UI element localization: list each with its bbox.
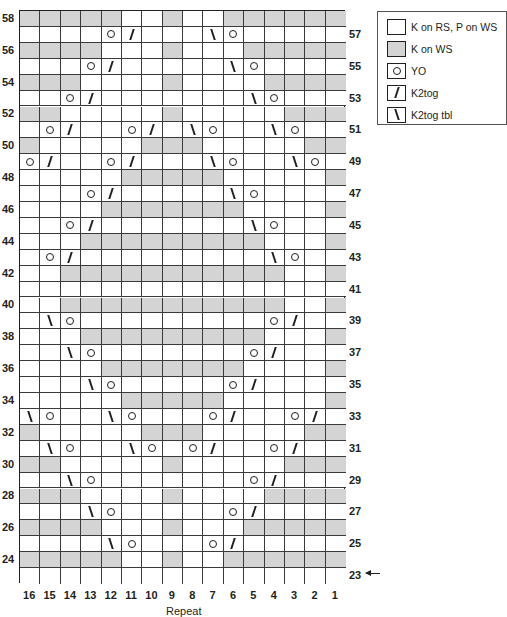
row-number: 47 [349, 187, 361, 199]
chart-cell [40, 425, 60, 441]
chart-cell [244, 11, 264, 27]
chart-cell [122, 202, 142, 218]
chart-cell [244, 266, 264, 282]
chart-cell [20, 266, 40, 282]
chart-cell [244, 552, 264, 568]
backslash-icon [68, 475, 74, 486]
chart-cell [285, 122, 305, 138]
yarn-over-circle-icon [46, 412, 54, 420]
chart-cell [122, 11, 142, 27]
chart-cell [20, 457, 40, 473]
chart-cell [81, 298, 101, 314]
row-number: 49 [349, 155, 361, 167]
backslash-icon [108, 411, 114, 422]
chart-cell [244, 250, 264, 266]
chart-cell [326, 361, 346, 377]
chart-row-43 [20, 250, 344, 266]
chart-cell [61, 552, 81, 568]
chart-cell [40, 409, 60, 425]
chart-cell [203, 218, 223, 234]
chart-cell [40, 91, 60, 107]
chart-cell [326, 11, 346, 27]
chart-cell [81, 202, 101, 218]
chart-cell [122, 313, 142, 329]
row-number: 56 [2, 44, 16, 56]
yarn-over-circle-icon [250, 62, 258, 70]
chart-row-48 [20, 170, 344, 186]
chart-cell [203, 345, 223, 361]
chart-cell [40, 377, 60, 393]
chart-cell [183, 218, 203, 234]
chart-cell [40, 520, 60, 536]
chart-cell [285, 409, 305, 425]
chart-row-26 [20, 520, 344, 536]
chart-cell [203, 250, 223, 266]
chart-cell [61, 11, 81, 27]
chart-cell [285, 536, 305, 552]
chart-row-45 [20, 218, 344, 234]
chart-cell [61, 409, 81, 425]
chart-cell [20, 11, 40, 27]
chart-cell [244, 138, 264, 154]
chart-cell [305, 473, 325, 489]
chart-cell [203, 313, 223, 329]
chart-cell [122, 138, 142, 154]
chart-row-42 [20, 266, 344, 282]
backslash-icon [108, 538, 114, 549]
chart-cell [305, 250, 325, 266]
chart-cell [305, 154, 325, 170]
chart-cell [203, 361, 223, 377]
chart-cell [122, 234, 142, 250]
chart-cell [244, 27, 264, 43]
chart-row-41 [20, 282, 344, 298]
chart-cell [81, 536, 101, 552]
chart-cell [203, 202, 223, 218]
chart-cell [203, 520, 223, 536]
chart-cell [163, 27, 183, 43]
chart-cell [183, 27, 203, 43]
yarn-over-circle-icon [229, 30, 237, 38]
column-number: 11 [121, 589, 141, 601]
chart-cell [224, 266, 244, 282]
yarn-over-circle-icon [66, 94, 74, 102]
chart-cell [40, 441, 60, 457]
row-number: 46 [2, 203, 16, 215]
chart-cell [285, 473, 305, 489]
chart-cell [326, 122, 346, 138]
chart-cell [265, 122, 285, 138]
chart-cell [61, 27, 81, 43]
chart-cell [163, 154, 183, 170]
chart-cell [224, 361, 244, 377]
chart-cell [244, 504, 264, 520]
chart-cell [265, 107, 285, 123]
yarn-over-circle-icon [250, 190, 258, 198]
chart-cell [142, 202, 162, 218]
chart-cell [305, 107, 325, 123]
chart-cell [183, 520, 203, 536]
chart-cell [40, 170, 60, 186]
repeat-label: Repeat [166, 605, 201, 617]
chart-cell [305, 409, 325, 425]
yarn-over-circle-icon [87, 190, 95, 198]
chart-cell [326, 552, 346, 568]
chart-cell [61, 489, 81, 505]
chart-cell [61, 457, 81, 473]
chart-cell [81, 234, 101, 250]
chart-cell [142, 27, 162, 43]
row-number: 58 [2, 12, 16, 24]
chart-row-39 [20, 313, 344, 329]
chart-cell [163, 91, 183, 107]
chart-cell [244, 43, 264, 59]
chart-cell [183, 329, 203, 345]
chart-cell [102, 75, 122, 91]
chart-cell [102, 234, 122, 250]
chart-cell [224, 122, 244, 138]
chart-cell [203, 457, 223, 473]
yarn-over-circle-icon [128, 126, 136, 134]
row-number: 30 [2, 458, 16, 470]
chart-cell [142, 91, 162, 107]
chart-cell [40, 473, 60, 489]
chart-cell [265, 234, 285, 250]
chart-cell [285, 393, 305, 409]
chart-cell [183, 298, 203, 314]
